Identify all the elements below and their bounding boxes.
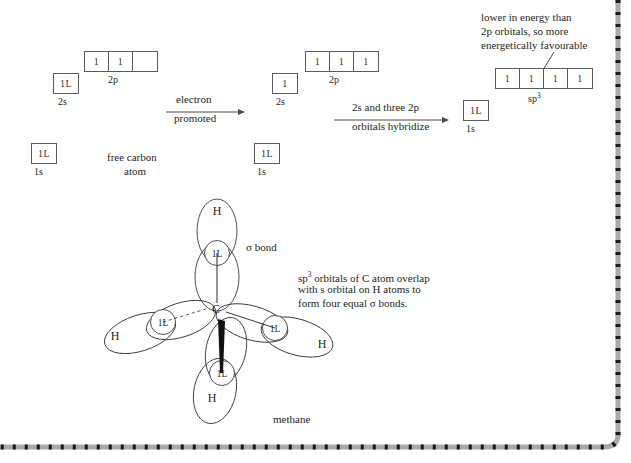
methane-structure: H 1L H 1L H 1L H 1L C [85,195,335,440]
stage3-sp3-box: 1 1 1 1 [495,68,593,89]
orbital-cell: 1L [255,144,279,163]
orbital-cell: 1 [330,52,354,71]
stage1-2s-label: 2s [58,96,67,107]
stage3-sp3-label-text: sp [528,93,537,104]
methane-h-left-label: H [111,329,120,343]
methane-h-bottom-label: H [208,391,217,405]
arrow2-label-line1: 2s and three 2p [352,100,419,114]
stage3-annotation-line3: energetically favourable [481,38,587,52]
orbital-cell: 1L [54,74,78,93]
orbital-cell: 1 [496,69,520,88]
stage2-2s-box: 1 [272,73,298,94]
methane-h-right-label: H [318,337,327,351]
orbital-cell: 1 [109,52,133,71]
methane-pair-bottom-label: 1L [217,369,228,379]
arrow1-label-line1: electron [176,92,211,106]
stage3-1s-box: 1L [463,100,489,121]
orbital-cell: 1 [354,52,378,71]
orbital-cell: 1 [544,69,568,88]
methane-note-line2: with s orbital on H atoms to [298,282,421,296]
sigma-bond-label: σ bond [246,240,277,254]
methane-pair-top-label: 1L [212,249,223,259]
stage3-sp3-label-sup: 3 [537,91,541,100]
methane-pair-right-label: 1L [270,324,281,334]
stage1-1s-label: 1s [34,166,43,177]
diagram-canvas: 1 1 2p 1L 2s 1L 1s free carbon atom elec… [0,0,631,463]
methane-caption: methane [273,412,310,426]
stage1-2s-box: 1L [53,73,79,94]
arrow2-label-line2: orbitals hybridize [352,119,429,133]
orbital-cell: 1L [32,144,56,163]
stage1-2p-box: 1 1 [84,51,158,72]
stage1-2p-label: 2p [108,74,118,85]
stage2-2p-label: 2p [329,74,339,85]
stage2-2s-label: 2s [276,96,285,107]
orbital-cell: 1 [568,69,592,88]
stage3-sp3-label: sp3 [528,91,541,104]
orbital-cell: 1 [85,52,109,71]
stage3-1s-label: 1s [466,123,475,134]
orbital-cell: 1L [464,101,488,120]
stage1-caption-line2: atom [124,164,146,178]
stage2-2p-box: 1 1 1 [305,51,379,72]
orbital-cell: 1 [306,52,330,71]
orbital-cell [133,52,157,71]
stage2-1s-box: 1L [254,143,280,164]
stage3-annotation-line2: 2p orbitals, so more [481,24,568,38]
methane-carbon-label: C [212,302,220,316]
arrow1-label-line2: promoted [174,111,216,125]
stage1-1s-box: 1L [31,143,57,164]
methane-note-line3: form four equal σ bonds. [298,296,408,310]
stage3-annotation-line1: lower in energy than [481,10,572,24]
orbital-cell: 1 [273,74,297,93]
methane-pair-left-label: 1L [158,318,169,328]
stage2-1s-label: 1s [257,166,266,177]
methane-h-top-label: H [213,204,222,218]
stage1-caption-line1: free carbon [107,150,157,164]
orbital-cell: 1 [520,69,544,88]
